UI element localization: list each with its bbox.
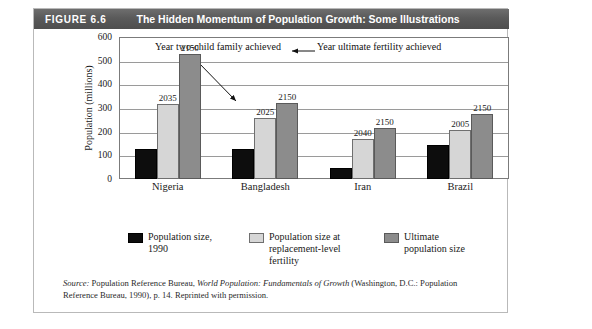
bar <box>276 103 298 179</box>
bar <box>135 149 157 179</box>
legend-swatch <box>384 233 399 243</box>
y-axis-tick: 400 <box>98 79 112 89</box>
bar-value-label: 2150 <box>181 43 199 53</box>
source-note: Source: Population Reference Bureau, Wor… <box>63 277 483 302</box>
x-axis-category-label: Iran <box>354 181 371 192</box>
bar-value-label: 2150 <box>473 103 491 113</box>
bar <box>254 118 276 179</box>
bar-value-label: 2025 <box>256 107 274 117</box>
bar <box>427 145 449 179</box>
y-axis-tick: 100 <box>98 150 112 160</box>
bar <box>179 54 201 179</box>
x-axis-category-label: Bangladesh <box>241 181 290 192</box>
legend-item: Population size at replacement-level fer… <box>249 231 341 268</box>
legend-item: Ultimate population size <box>384 231 465 255</box>
x-axis-category-label: Nigeria <box>152 181 184 192</box>
figure-title-bar: FIGURE 6.6 The Hidden Momentum of Popula… <box>34 9 509 29</box>
y-axis-tick: 600 <box>98 32 112 42</box>
annotation-two-child-family: Year two-child family achieved <box>155 41 281 52</box>
chart-legend: Population size, 1990Population size at … <box>34 231 509 277</box>
bar <box>330 168 352 179</box>
legend-item: Population size, 1990 <box>128 231 212 255</box>
bar <box>232 149 254 179</box>
bar-value-label: 2035 <box>159 93 177 103</box>
legend-swatch <box>249 233 264 243</box>
y-axis-tick: 300 <box>98 103 112 113</box>
bar <box>352 139 374 179</box>
source-text-1: Population Reference Bureau, <box>89 278 197 288</box>
bar <box>471 114 493 179</box>
bar-value-label: 2150 <box>376 117 394 127</box>
y-axis-tick: 200 <box>98 127 112 137</box>
bar <box>157 104 179 179</box>
bar <box>449 130 471 179</box>
bar-value-label: 2040 <box>354 128 372 138</box>
y-axis-tick: 500 <box>98 56 112 66</box>
legend-swatch <box>128 233 143 243</box>
bar-value-label: 2005 <box>451 119 469 129</box>
annotation-ultimate-fertility: Year ultimate fertility achieved <box>317 41 441 52</box>
chart: Population (millions) 010020030040050060… <box>34 29 509 229</box>
legend-label: Ultimate population size <box>404 231 465 255</box>
source-title: World Population: Fundamentals of Growth <box>197 278 349 288</box>
figure-container: FIGURE 6.6 The Hidden Momentum of Popula… <box>33 8 508 313</box>
figure-number: FIGURE 6.6 <box>45 14 106 25</box>
y-axis-tick: 0 <box>107 174 112 184</box>
bar <box>374 128 396 179</box>
figure-title: The Hidden Momentum of Population Growth… <box>136 13 459 25</box>
y-axis-tick-labels: 0100200300400500600 <box>34 37 116 179</box>
legend-label: Population size, 1990 <box>148 231 212 255</box>
x-axis-category-label: Brazil <box>447 181 473 192</box>
legend-label: Population size at replacement-level fer… <box>269 231 341 268</box>
source-label: Source: <box>63 278 89 288</box>
bar-value-label: 2150 <box>278 92 296 102</box>
